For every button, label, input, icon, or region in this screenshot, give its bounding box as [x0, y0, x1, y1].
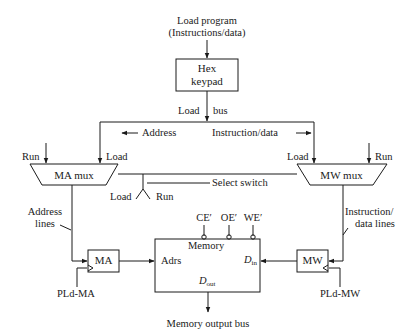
- load-bus-label-right: bus: [213, 105, 228, 117]
- mw-label: MW: [297, 254, 328, 267]
- ma-mux-run-label: Run: [22, 151, 40, 163]
- instruction-data-lines-line2: data lines: [355, 218, 395, 230]
- select-switch-load-label: Load: [110, 191, 132, 203]
- memory-dout-label: Dout: [199, 275, 216, 290]
- instruction-data-lines-line1: Instruction/: [345, 206, 393, 218]
- load-bus-label-left: Load: [178, 105, 200, 117]
- instructions-data-label: (Instructions/data): [147, 27, 267, 39]
- we-control-label: WE′: [241, 212, 265, 224]
- address-lines-line1: Address: [20, 206, 70, 218]
- mw-mux-label: MW mux: [310, 169, 373, 182]
- mw-mux-run-label: Run: [375, 151, 393, 163]
- memory-adrs-label: Adrs: [161, 255, 181, 267]
- oe-control-label: OE′: [217, 212, 241, 224]
- memory-din-label: Din: [244, 254, 257, 269]
- pld-ma-label: PLd-MA: [57, 288, 95, 300]
- memory-output-bus-label: Memory output bus: [148, 318, 268, 330]
- select-switch-label: Select switch: [212, 177, 268, 189]
- address-direction-label: Address: [142, 127, 176, 139]
- instruction-data-direction-label: Instruction/data: [212, 127, 278, 139]
- pld-mw-label: PLd-MW: [320, 288, 360, 300]
- hex-keypad-line1: Hex: [176, 62, 238, 75]
- hex-keypad-line2: keypad: [176, 75, 238, 88]
- ma-label: MA: [88, 254, 119, 267]
- select-switch-run-label: Run: [156, 191, 174, 203]
- ma-mux-label: MA mux: [42, 169, 106, 182]
- mw-mux-load-label: Load: [287, 151, 309, 163]
- address-lines-line2: lines: [20, 218, 70, 230]
- ce-control-label: CE′: [192, 212, 216, 224]
- load-program-label: Load program: [157, 15, 257, 27]
- memory-title: Memory: [188, 240, 224, 252]
- ma-mux-load-label: Load: [106, 151, 128, 163]
